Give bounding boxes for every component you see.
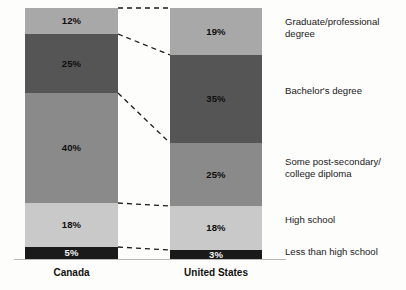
legend-label-bachelors: Bachelor's degree [285, 85, 403, 97]
segment-value-us-graduate: 19% [206, 27, 225, 37]
connector-graduate-bachelors [118, 34, 170, 55]
segment-value-canada-high-school: 18% [62, 220, 81, 230]
chart-container: 12% 25% 40% 18% 5% 19% 35% 25% 18% 3% [0, 0, 406, 290]
baseline-axis [14, 259, 286, 260]
segment-value-canada-post-secondary: 40% [62, 143, 81, 153]
axis-label-united-states: United States [170, 268, 262, 278]
segment-value-us-less-than-high-school: 3% [209, 250, 223, 260]
segment-us-graduate: 19% [170, 8, 262, 55]
connector-bachelors-post-secondary [118, 93, 170, 143]
connector-post-secondary-high-school [118, 203, 170, 206]
bar-united-states: 19% 35% 25% 18% 3% [170, 8, 262, 259]
segment-us-high-school: 18% [170, 206, 262, 250]
segment-value-us-bachelors: 35% [206, 94, 225, 104]
legend-label-less-than-high-school: Less than high school [285, 246, 403, 258]
bar-canada: 12% 25% 40% 18% 5% [25, 8, 118, 259]
segment-canada-graduate: 12% [25, 8, 118, 34]
legend-label-post-secondary: Some post-secondary/ college diploma [285, 156, 403, 179]
axis-label-canada: Canada [25, 268, 118, 278]
segment-us-less-than-high-school: 3% [170, 250, 262, 259]
connector-high-school-less-than-high-school [118, 247, 170, 250]
segment-value-us-post-secondary: 25% [206, 170, 225, 180]
segment-value-canada-less-than-high-school: 5% [65, 248, 79, 258]
segment-value-us-high-school: 18% [206, 223, 225, 233]
legend-label-high-school: High school [285, 214, 403, 226]
segment-canada-less-than-high-school: 5% [25, 247, 118, 259]
segment-canada-high-school: 18% [25, 203, 118, 247]
segment-us-bachelors: 35% [170, 55, 262, 143]
segment-us-post-secondary: 25% [170, 143, 262, 206]
segment-canada-post-secondary: 40% [25, 93, 118, 203]
segment-value-canada-bachelors: 25% [62, 59, 81, 69]
segment-value-canada-graduate: 12% [62, 16, 81, 26]
legend-label-graduate: Graduate/professional degree [285, 16, 403, 39]
segment-canada-bachelors: 25% [25, 34, 118, 93]
